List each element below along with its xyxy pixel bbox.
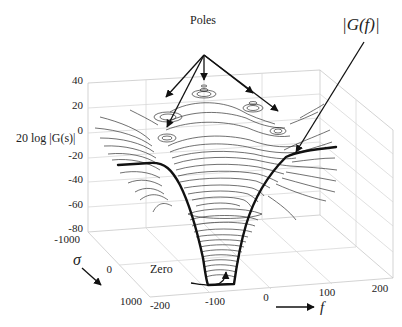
surface-contours [95, 85, 337, 277]
gf-label: |G(f)| [342, 15, 380, 34]
zero-label: Zero [150, 262, 173, 276]
svg-text:100: 100 [319, 286, 336, 298]
axis-box [88, 70, 393, 297]
gf-arrow [296, 42, 364, 152]
svg-text:-20: -20 [68, 149, 83, 161]
svg-text:-1000: -1000 [54, 233, 80, 245]
f-ticks: -200 -100 0 100 200 [150, 282, 389, 311]
sigma-direction-arrow [82, 268, 101, 285]
poles-label: Poles [190, 13, 216, 27]
svg-text:1000: 1000 [120, 295, 143, 307]
z-ticks: 40 20 0 -20 -40 -60 -80 [68, 74, 83, 234]
svg-text:0: 0 [263, 291, 269, 303]
svg-text:0: 0 [107, 263, 113, 275]
svg-text:-200: -200 [150, 299, 171, 311]
svg-text:40: 40 [72, 74, 84, 86]
svg-text:0: 0 [78, 124, 84, 136]
svg-text:-60: -60 [68, 198, 83, 210]
sigma-ticks: -1000 0 1000 [54, 233, 142, 307]
svg-text:-40: -40 [68, 173, 83, 185]
z-axis-label: 20 log |G(s)| [16, 131, 75, 145]
surface-plot: Poles Zero |G(f)| 20 log |G(s)| σ f 40 2… [0, 0, 402, 327]
svg-text:200: 200 [372, 282, 389, 294]
f-axis-label: f [320, 299, 326, 315]
sigma-axis-label: σ [73, 251, 82, 268]
svg-text:20: 20 [72, 99, 84, 111]
svg-text:-100: -100 [205, 295, 226, 307]
